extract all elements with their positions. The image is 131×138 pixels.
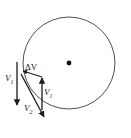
label-v1-right: V1 <box>44 88 53 99</box>
diagram-canvas <box>0 0 131 138</box>
label-delta-v-text: ΔV <box>25 62 37 72</box>
label-v1-left: V1 <box>5 74 14 85</box>
label-v1-left-sub: 1 <box>11 79 14 85</box>
circle-center-dot <box>67 61 72 66</box>
label-v1-right-sub: 1 <box>50 93 53 99</box>
label-v2-sub: 2 <box>30 109 33 115</box>
vector-diagram-figure: V1 V2 ΔV V1 <box>0 0 131 138</box>
label-v2: V2 <box>24 104 33 115</box>
label-delta-v: ΔV <box>25 63 37 72</box>
